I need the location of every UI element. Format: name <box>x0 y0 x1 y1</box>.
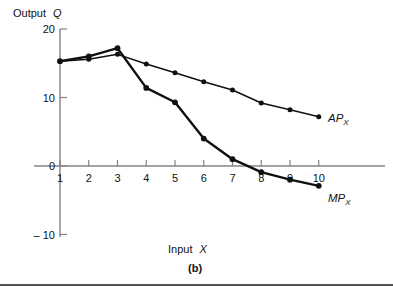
data-point-mp_x-8 <box>258 169 264 175</box>
data-point-mp_x-3 <box>115 45 121 51</box>
y-tick-label--10: – 10 <box>34 229 55 241</box>
data-point-ap_x-10 <box>316 114 321 119</box>
figure-panel: 20100– 10 12345678910 Output Q Input X A… <box>0 0 393 293</box>
x-tick-label-6: 6 <box>201 172 207 184</box>
series-group <box>57 45 322 188</box>
data-point-mp_x-1 <box>57 58 63 64</box>
y-tick-label-10: 10 <box>43 92 55 104</box>
x-tick-label-1: 1 <box>57 172 63 184</box>
data-point-mp_x-9 <box>287 177 293 183</box>
series-line-ap_x <box>60 54 319 116</box>
data-point-mp_x-4 <box>143 85 149 91</box>
data-point-ap_x-4 <box>144 61 149 66</box>
figure-caption: (b) <box>188 262 202 274</box>
series-label-ap: APX <box>327 112 349 127</box>
series-line-mp_x <box>60 48 319 186</box>
x-axis-ticks <box>60 160 319 166</box>
data-point-ap_x-7 <box>230 87 235 92</box>
series-label-mp: MPX <box>328 192 351 207</box>
x-tick-label-3: 3 <box>114 172 120 184</box>
data-point-ap_x-5 <box>173 70 178 75</box>
production-function-chart: 20100– 10 12345678910 Output Q Input X A… <box>0 0 393 293</box>
x-axis-title: Input X <box>168 243 208 255</box>
x-tick-label-7: 7 <box>229 172 235 184</box>
x-tick-label-4: 4 <box>143 172 149 184</box>
y-axis-title: Output Q <box>13 7 62 19</box>
y-axis-tick-labels: 20100– 10 <box>34 23 55 241</box>
data-point-mp_x-2 <box>86 54 92 60</box>
data-point-mp_x-5 <box>172 99 178 105</box>
data-point-mp_x-6 <box>201 136 207 142</box>
x-tick-label-10: 10 <box>313 172 325 184</box>
data-point-mp_x-7 <box>230 156 236 162</box>
x-tick-label-2: 2 <box>86 172 92 184</box>
data-point-ap_x-9 <box>288 107 293 112</box>
data-point-ap_x-8 <box>259 100 264 105</box>
x-tick-label-5: 5 <box>172 172 178 184</box>
y-tick-label-0: 0 <box>49 160 55 172</box>
y-tick-label-20: 20 <box>43 23 55 35</box>
data-point-mp_x-10 <box>316 183 322 189</box>
data-point-ap_x-6 <box>201 79 206 84</box>
